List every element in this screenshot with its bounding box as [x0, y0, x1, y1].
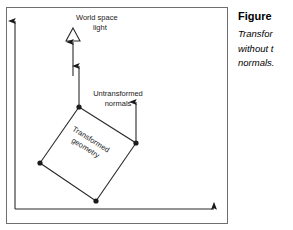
caption-line-3: normals. — [238, 56, 293, 71]
diagram-canvas — [7, 8, 227, 223]
normals-label-line2: normals — [79, 99, 157, 109]
figure-caption: Figure Transfor without t normals. — [238, 9, 293, 71]
caption-line-2: without t — [238, 42, 293, 57]
caption-title: Figure — [238, 9, 293, 23]
light-label-line2: light — [76, 23, 107, 32]
caption-line-1: Transfor — [238, 27, 293, 42]
figure-illustration: World space light Untransformed normals … — [0, 0, 293, 230]
label-untransformed-normals: Untransformed normals — [79, 89, 157, 108]
figure-panel: World space light Untransformed normals … — [6, 7, 228, 224]
caption-body: Transfor without t normals. — [238, 27, 293, 71]
vertex-dot-left — [37, 160, 42, 165]
light-label-line1: World space — [76, 13, 118, 22]
vertex-dot-bottom — [93, 198, 98, 203]
normals-label-line1: Untransformed — [93, 89, 143, 98]
label-world-space-light: World space light — [76, 13, 118, 32]
